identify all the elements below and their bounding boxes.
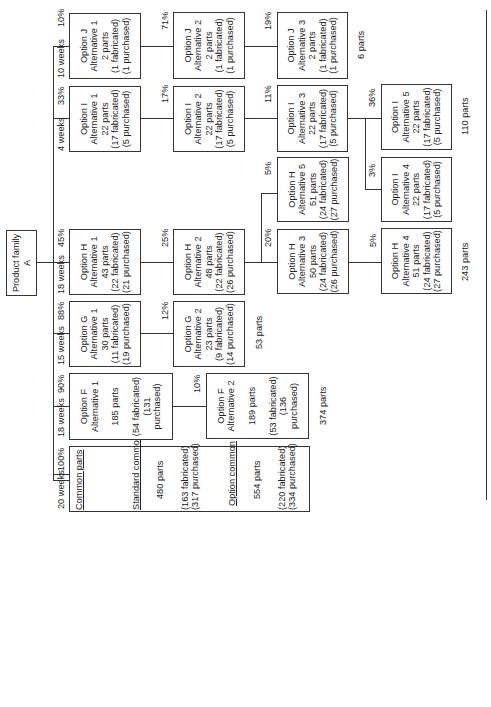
box-fabricated: (17 fabricated)	[110, 89, 121, 148]
option-f-alt2-box: Option F Alternative 2 189 parts (53 fab…	[206, 373, 309, 439]
box-alternative: Alternative 3	[297, 93, 308, 144]
pct-f2: 10%	[192, 375, 202, 393]
box-fabricated: (17 fabricated)	[318, 89, 329, 148]
total-j: 6 parts	[356, 31, 366, 59]
box-fabricated: (1 fabricated)	[318, 18, 329, 72]
standard-common-pur: (317 purchased)	[190, 443, 200, 510]
pct-label-f: 90%	[56, 375, 66, 393]
box-parts: 30 parts	[100, 317, 111, 350]
box-parts: 50 parts	[308, 245, 319, 278]
box-purchased: (5 purchased)	[328, 90, 339, 147]
connector-g1-g2	[141, 333, 173, 334]
box-fabricated: (54 fabricated)	[131, 377, 142, 436]
pct-g2: 12%	[160, 302, 170, 320]
stub-i4	[365, 189, 381, 190]
box-parts: 2 parts	[307, 31, 318, 59]
box-parts: 22 parts	[204, 102, 215, 135]
box-purchased: (21 purchased)	[121, 231, 132, 293]
weeks-label-g: 15 weeks	[56, 326, 66, 365]
pct-label-h: 45%	[56, 229, 66, 247]
box-purchased: (136 purchased)	[278, 374, 299, 438]
box-alternative: Alternative 4	[401, 235, 412, 286]
box-option: Option I	[390, 101, 401, 133]
box-fabricated: (9 fabricated)	[214, 307, 225, 361]
box-parts: 2 parts	[100, 32, 111, 60]
box-alternative: Alternative 3	[297, 236, 308, 287]
box-purchased: (27 purchased)	[432, 230, 443, 292]
box-parts: 22 parts	[307, 102, 318, 135]
option-i-alt3-box: Option I Alternative 3 22 parts (17 fabr…	[277, 85, 348, 152]
option-j-alt1-box: Option J Alternative 1 2 parts (1 fabric…	[69, 13, 141, 79]
option-h-alt1-box: Option H Alternative 1 43 parts (22 fabr…	[69, 229, 141, 295]
box-option: Option J	[79, 29, 90, 63]
box-purchased: (27 purchased)	[329, 159, 340, 221]
pct-i3: 11%	[263, 85, 273, 103]
box-purchased: (1 purchased)	[328, 17, 339, 74]
box-purchased: (1 purchased)	[121, 18, 132, 75]
pct-h4: 5%	[368, 234, 378, 247]
box-parts: 23 parts	[204, 317, 215, 350]
root-connector	[37, 262, 53, 263]
root-box: Product family A	[6, 230, 37, 296]
box-alternative: Alternative 2	[193, 308, 204, 359]
product-family-tree-diagram: Product family A 20 weeks 100% 18 weeks …	[0, 0, 491, 707]
stub-h5	[261, 193, 277, 194]
box-option: Option G	[183, 316, 194, 353]
connector-j2-j3	[245, 46, 277, 47]
box-fabricated: (1 fabricated)	[110, 19, 121, 73]
root-label: Product family A	[11, 231, 32, 295]
option-h-alt3-box: Option H Alternative 3 50 parts (24 fabr…	[277, 229, 349, 294]
page-rule	[486, 10, 487, 500]
connector-h1-h2	[141, 262, 173, 263]
option-common-fab: (220 fabricated)	[277, 446, 287, 510]
box-purchased: (5 purchased)	[432, 89, 443, 146]
weeks-label-f: 18 weeks	[56, 398, 66, 437]
box-option: Option H	[390, 243, 401, 279]
box-fabricated: (22 fabricated)	[214, 232, 225, 291]
total-i: 110 parts	[460, 97, 470, 135]
box-fabricated: (1 fabricated)	[214, 18, 225, 72]
box-fabricated: (22 fabricated)	[110, 232, 121, 291]
connector-i2-i3	[245, 118, 277, 119]
total-h: 243 parts	[460, 243, 470, 281]
total-f: 374 parts	[318, 387, 328, 425]
option-h-alt5-box: Option H Alternative 5 51 parts (24 fabr…	[277, 157, 349, 222]
pct-label-j: 10%	[56, 9, 66, 27]
connector-i1-i2	[141, 118, 173, 119]
option-common-pur: (334 purchased)	[287, 443, 297, 510]
box-purchased: (19 purchased)	[121, 303, 132, 365]
box-purchased: (26 purchased)	[329, 231, 340, 293]
box-alternative: Alternative 2	[226, 380, 237, 431]
box-fabricated: (11 fabricated)	[110, 305, 121, 364]
pct-i4: 3%	[367, 164, 377, 177]
pct-i2: 17%	[160, 85, 170, 103]
box-fabricated: (17 fabricated)	[422, 160, 433, 219]
box-purchased: (14 purchased)	[225, 303, 236, 365]
box-parts: 51 parts	[411, 244, 422, 277]
option-h-alt2-box: Option H Alternative 2 48 parts (22 fabr…	[173, 229, 245, 295]
option-g-alt2-box: Option G Alternative 2 23 parts (9 fabri…	[173, 301, 245, 367]
option-common-parts: 554 parts	[252, 461, 262, 499]
box-parts: 22 parts	[411, 173, 422, 206]
option-g-alt1-box: Option G Alternative 1 30 parts (11 fabr…	[69, 301, 141, 367]
box-alternative: Alternative 1	[90, 381, 101, 432]
box-option: Option F	[79, 389, 90, 424]
pct-label-g: 88%	[56, 302, 66, 320]
standard-common-title: Standard common	[131, 435, 141, 510]
option-i-alt2-box: Option I Alternative 2 22 parts (17 fabr…	[173, 86, 245, 152]
box-purchased: (5 purchased)	[121, 91, 132, 148]
box-parts: 43 parts	[100, 245, 111, 278]
box-alternative: Alternative 2	[193, 20, 204, 71]
box-purchased: (26 purchased)	[225, 231, 236, 293]
connector-h3-h4	[349, 262, 381, 263]
box-option: Option I	[183, 103, 194, 135]
option-f-alt1-box: Option F Alternative 1 185 parts (54 fab…	[69, 373, 173, 440]
box-purchased: (131 purchased)	[142, 374, 163, 439]
box-option: Option I	[390, 173, 401, 205]
box-alternative: Alternative 1	[89, 308, 100, 359]
connector-j1-j2	[141, 46, 173, 47]
standard-common-parts: 480 parts	[155, 461, 165, 499]
common-parts-title: Common parts	[74, 450, 84, 510]
box-parts: 48 parts	[204, 245, 215, 278]
weeks-label-common: 20 weeks	[56, 470, 66, 509]
